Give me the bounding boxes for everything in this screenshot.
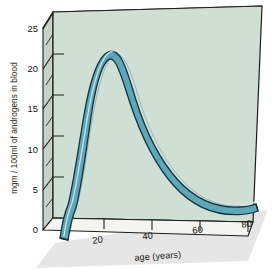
y-tick-label-5: 5 — [33, 184, 38, 195]
x-tick-label-20: 20 — [92, 233, 104, 245]
x-tick-label-80: 80 — [241, 217, 253, 229]
x-tick-label-40: 40 — [142, 229, 154, 241]
y-tick-label-10: 10 — [28, 144, 38, 155]
y-tick-label-20: 20 — [28, 63, 38, 74]
y-tick-label-15: 15 — [28, 103, 38, 114]
panel-left-face — [43, 12, 53, 230]
y-tick-label-0: 0 — [33, 224, 38, 235]
x-tick-label-60: 60 — [192, 223, 204, 235]
y-tick-label-25: 25 — [28, 23, 38, 34]
androgen-level-chart: 25 20 15 10 5 0 mgm / 100ml of androgens… — [0, 0, 272, 269]
y-axis-title: mgm / 100ml of androgens in blood — [10, 62, 19, 194]
